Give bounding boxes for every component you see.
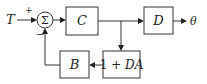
arrow-head-icon <box>31 17 37 23</box>
plus-sign: + <box>25 5 33 15</box>
block-c: C <box>66 7 98 35</box>
wire-b-to-sum <box>45 32 60 65</box>
block-d: D <box>144 7 173 34</box>
block-1-plus-da-label: 1 + DA <box>100 58 144 72</box>
output-label-theta: θ <box>190 15 197 28</box>
arrow-head-icon <box>60 17 66 23</box>
arrow-head-icon <box>89 62 95 68</box>
arrow-head-icon <box>118 45 124 51</box>
block-b: B <box>60 51 89 78</box>
sigma-symbol: Σ <box>41 14 49 27</box>
arrow-head-icon <box>138 18 144 24</box>
summing-junction: Σ <box>37 12 53 28</box>
block-d-label: D <box>152 13 164 28</box>
block-c-label: C <box>77 13 87 28</box>
minus-sign: − <box>36 29 44 40</box>
block-diagram: T + Σ − C D θ 1 + DA B <box>0 0 207 84</box>
block-b-label: B <box>69 57 80 72</box>
block-1-plus-da: 1 + DA <box>100 51 144 78</box>
arrow-head-icon <box>181 18 187 24</box>
input-label-t: T <box>6 12 16 27</box>
